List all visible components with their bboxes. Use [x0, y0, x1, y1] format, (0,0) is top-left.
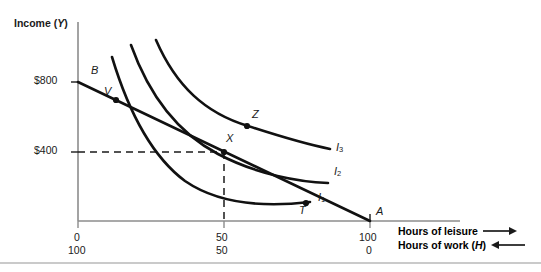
x-tick-label-leisure-50: 50: [216, 231, 228, 243]
curve-label-i1-subscript: 1: [321, 195, 325, 204]
indifference-curve-i2: [131, 45, 328, 183]
x-axis-title-work-row: Hours of work (H): [398, 239, 525, 251]
x-tick-label-leisure-100: 100: [359, 231, 377, 243]
curve-label-i2: I2: [334, 165, 341, 178]
curve-label-i1: I1: [318, 191, 325, 204]
point-label-t: T: [299, 204, 306, 216]
curve-label-i2-subscript: 2: [337, 169, 341, 178]
curve-label-i3-subscript: 3: [339, 145, 343, 154]
point-marker-z: [244, 123, 250, 129]
point-label-a: A: [376, 205, 383, 217]
x-axis-title-work-text: Hours of work (: [398, 239, 475, 251]
curve-label-i3: I3: [336, 141, 343, 154]
x-tick-label-work-100: 100: [68, 244, 86, 256]
point-marker-v: [113, 97, 119, 103]
figure-container: Income (Y) $800 $400 0 50 100 100 50 0 B…: [0, 0, 541, 272]
point-label-b: B: [91, 64, 98, 76]
y-tick-label-800: $800: [34, 74, 57, 86]
x-axis-title-work-paren: ): [483, 239, 487, 251]
x-tick-label-leisure-0: 0: [74, 231, 80, 243]
point-label-x: X: [226, 132, 233, 144]
x-axis-title-work: Hours of work (H): [398, 239, 486, 251]
point-label-v: V: [104, 85, 111, 97]
right-arrow-icon: [483, 226, 517, 236]
indifference-curve-i1: [112, 57, 310, 204]
x-tick-label-work-0: 0: [366, 244, 372, 256]
x-axis-title-leisure-row: Hours of leisure: [398, 225, 517, 237]
y-axis-title: Income (Y): [14, 17, 68, 29]
left-arrow-icon: [491, 240, 525, 250]
y-tick-label-400: $400: [34, 144, 57, 156]
point-label-z: Z: [252, 108, 259, 120]
x-axis-title-work-symbol: H: [475, 239, 483, 251]
x-axis-title-leisure: Hours of leisure: [398, 225, 478, 237]
point-marker-x: [221, 149, 227, 155]
x-tick-label-work-50: 50: [216, 244, 228, 256]
